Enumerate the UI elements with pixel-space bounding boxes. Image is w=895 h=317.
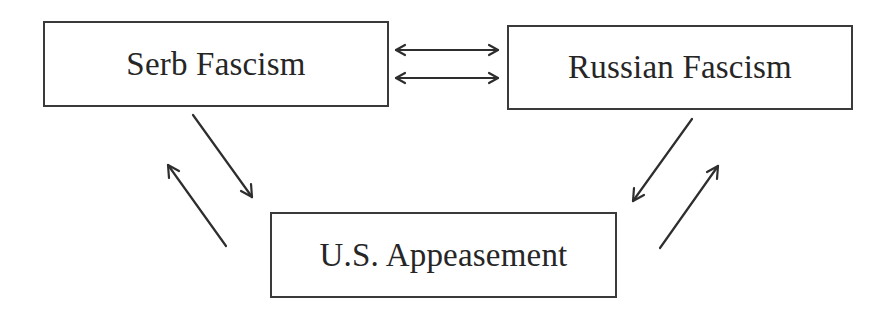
edge-serb-russian-bidirectional-1	[396, 45, 498, 55]
arrowhead-icon	[241, 184, 252, 197]
node-label: Serb Fascism	[126, 46, 305, 83]
node-russian-fascism: Russian Fascism	[507, 25, 853, 110]
edge-us-to-russian	[660, 166, 718, 248]
edge-us-to-serb	[168, 165, 226, 246]
edge-serb-russian-bidirectional-2	[396, 73, 498, 83]
arrowhead-icon	[707, 166, 718, 179]
edge-serb-to-us	[193, 115, 252, 197]
node-us-appeasement: U.S. Appeasement	[270, 212, 617, 298]
arrowhead-left-icon	[396, 45, 405, 55]
arrowhead-icon	[168, 165, 179, 178]
arrowhead-icon	[633, 188, 644, 201]
node-serb-fascism: Serb Fascism	[43, 21, 389, 107]
node-label: U.S. Appeasement	[320, 237, 568, 274]
node-label: Russian Fascism	[568, 49, 792, 86]
arrowhead-right-icon	[489, 73, 498, 83]
arrowhead-left-icon	[396, 73, 405, 83]
arrowhead-right-icon	[489, 45, 498, 55]
edge-russian-to-us	[633, 119, 692, 201]
